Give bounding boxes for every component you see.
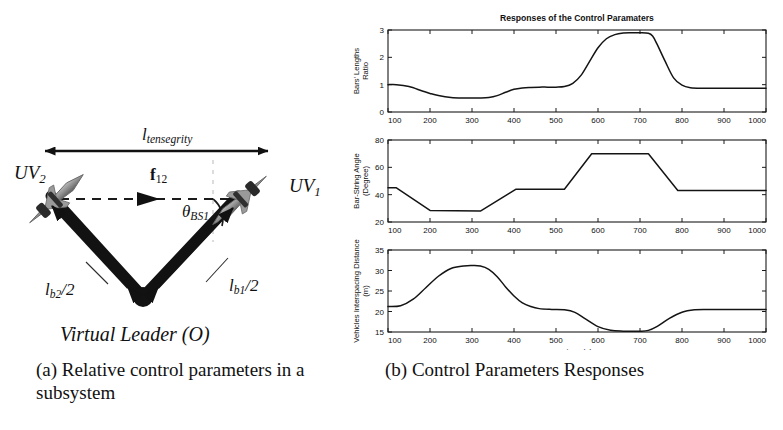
subplot-3: 1002003004005006007008009001000152025303…	[352, 239, 767, 350]
y-tick-label: 35	[375, 246, 384, 255]
axes-frame	[388, 30, 766, 112]
y-tick-label: 25	[375, 287, 384, 296]
x-tick-label: 400	[507, 336, 521, 345]
label-bar2-half-length: lb2/2	[45, 281, 75, 298]
label-bar-string-angle: θBS1	[182, 203, 209, 220]
x-tick-label: 600	[591, 226, 605, 235]
caption-panel-b: (b) Control Parameters Responses	[385, 358, 765, 381]
x-tick-label: 700	[633, 116, 647, 125]
x-tick-label: 400	[507, 226, 521, 235]
x-tick-label: 400	[507, 116, 521, 125]
x-tick-label: 100	[388, 336, 402, 345]
x-tick-label: 100	[388, 116, 402, 125]
label-bar1-half-length: lb1/2	[229, 277, 259, 294]
y-tick-label: 30	[375, 267, 384, 276]
x-tick-label: 900	[717, 226, 731, 235]
y-tick-label: 0	[380, 108, 385, 117]
force-vector-arrowhead	[137, 192, 160, 206]
y-tick-label: 60	[375, 163, 384, 172]
panel-a-diagram: ltensegrity UV2 UV1 f12 θBS1 lb2/2 lb1/2…	[0, 0, 345, 350]
x-tick-label: 500	[549, 336, 563, 345]
caption-panel-a: (a) Relative control parameters in a sub…	[36, 358, 336, 404]
subplot-2: 100200300400500600700800900100020406080B…	[352, 136, 767, 235]
x-tick-label: 500	[549, 116, 563, 125]
data-series-line	[388, 33, 766, 98]
label-uv2: UV2	[14, 163, 46, 182]
x-tick-label: 800	[675, 116, 689, 125]
y-tick-label: 80	[375, 136, 384, 145]
y-axis-label: Bar-String Angle	[352, 153, 361, 208]
y-axis-label: Ratio	[361, 62, 370, 80]
y-tick-label: 20	[375, 308, 384, 317]
x-tick-label: 900	[717, 336, 731, 345]
y-axis-label: (m)	[361, 285, 370, 297]
y-axis-label: Vehicles Interspacing Distance	[352, 239, 361, 342]
y-axis-label: Bars' Lengths	[352, 48, 361, 94]
x-tick-label: 300	[465, 116, 479, 125]
x-tick-label: 300	[465, 336, 479, 345]
control-parameters-response-plots: 10020030040050060070080090010000123Bars'…	[345, 0, 783, 350]
label-uv1: UV1	[289, 176, 321, 195]
virtual-leader-node	[133, 287, 153, 307]
y-tick-label: 20	[375, 218, 384, 227]
x-tick-label: 800	[675, 336, 689, 345]
bar2-half-length-arrow	[52, 206, 128, 288]
x-tick-label: 1000	[748, 116, 766, 125]
figure-container: ltensegrity UV2 UV1 f12 θBS1 lb2/2 lb1/2…	[0, 0, 783, 430]
x-tick-label: 1000	[748, 336, 766, 345]
x-tick-label: 700	[633, 226, 647, 235]
y-axis-label: (Degree)	[361, 166, 370, 196]
x-tick-label: 200	[423, 226, 437, 235]
x-tick-label: 200	[423, 336, 437, 345]
x-tick-label: 100	[388, 226, 402, 235]
x-tick-label: 700	[633, 336, 647, 345]
label-force-f12: f12	[150, 166, 167, 183]
data-series-line	[388, 154, 766, 211]
x-tick-label: 300	[465, 226, 479, 235]
y-tick-label: 40	[375, 191, 384, 200]
x-tick-label: 800	[675, 226, 689, 235]
y-tick-label: 2	[380, 53, 385, 62]
x-tick-label: 500	[549, 226, 563, 235]
label-virtual-leader: Virtual Leader (O)	[60, 324, 210, 344]
axes-frame	[388, 250, 766, 332]
x-tick-label: 900	[717, 116, 731, 125]
tensegrity-bars	[51, 196, 238, 307]
data-series-line	[388, 266, 766, 332]
y-tick-label: 3	[380, 26, 385, 35]
panel-b-plots: 10020030040050060070080090010000123Bars'…	[345, 0, 783, 350]
x-tick-label: 1000	[748, 226, 766, 235]
label-tensegrity-length: ltensegrity	[142, 126, 192, 143]
axes-frame	[388, 140, 766, 222]
chart-title: Responses of the Control Paramaters	[500, 13, 654, 23]
x-axis-label: Time (s)	[562, 348, 593, 350]
x-tick-label: 600	[591, 336, 605, 345]
y-tick-label: 1	[380, 81, 385, 90]
force-vector-dashed-line	[60, 192, 248, 206]
y-tick-label: 15	[375, 328, 384, 337]
x-tick-label: 200	[423, 116, 437, 125]
subplot-1: 10020030040050060070080090010000123Bars'…	[352, 13, 767, 125]
x-tick-label: 600	[591, 116, 605, 125]
